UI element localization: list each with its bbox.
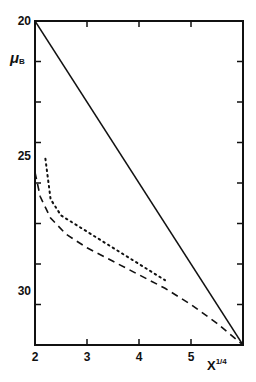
x-axis-label: X1/4: [207, 357, 227, 373]
x-tick-label: 3: [84, 350, 91, 364]
chart: 2345202530 μB X1/4: [0, 0, 256, 382]
y-axis-label: μB: [9, 49, 25, 66]
series-solid: [35, 21, 243, 345]
y-tick-label: 25: [18, 149, 32, 163]
series-dotted: [45, 159, 165, 281]
x-tick-label: 4: [136, 350, 143, 364]
y-tick-label: 20: [18, 14, 32, 28]
x-tick-label: 5: [188, 350, 195, 364]
y-tick-label: 30: [18, 284, 32, 298]
data-series: [35, 21, 243, 345]
x-tick-label: 2: [32, 350, 39, 364]
series-dashed: [35, 172, 243, 345]
axis-tick-labels: 2345202530: [18, 14, 195, 364]
